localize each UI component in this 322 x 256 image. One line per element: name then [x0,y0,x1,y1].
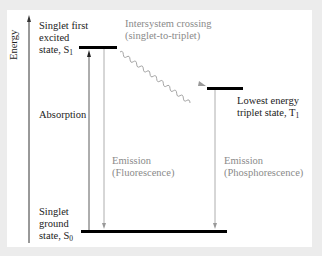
s0-label-line2: ground [39,218,73,230]
energy-axis-label: Energy [8,30,19,60]
isc-label-line1: Intersystem crossing [125,18,212,30]
s0-label-line3: state, S0 [39,230,73,242]
t1-label-line2: triplet state, T1 [237,107,299,119]
phosphorescence-arrow [213,90,217,229]
absorption-label: Absorption [39,109,86,121]
s1-label-line1: Singlet first [39,20,88,32]
fluorescence-label-line2: (Fluorescence) [112,167,174,179]
fluorescence-arrow [102,49,106,229]
energy-axis [27,15,31,243]
t1-label: Lowest energy triplet state, T1 [237,95,299,119]
absorption-arrow [87,50,91,230]
s1-label-line3: state, S1 [39,44,88,56]
isc-label: Intersystem crossing (singlet-to-triplet… [125,18,212,42]
phosphorescence-label-line2: (Phosphorescence) [224,167,303,179]
fluorescence-label-line1: Emission [112,155,174,167]
t1-level-bar [207,87,243,90]
isc-wavy-arrow [112,51,206,103]
t1-label-line1: Lowest energy [237,95,299,107]
phosphorescence-label: Emission (Phosphorescence) [224,155,303,179]
s0-label: Singlet ground state, S0 [39,206,73,242]
s1-label: Singlet first excited state, S1 [39,20,88,56]
s1-label-line2: excited [39,32,88,44]
s0-label-line1: Singlet [39,206,73,218]
fluorescence-label: Emission (Fluorescence) [112,155,174,179]
s0-level-bar [81,230,227,233]
phosphorescence-label-line1: Emission [224,155,303,167]
isc-label-line2: (singlet-to-triplet) [125,30,212,42]
